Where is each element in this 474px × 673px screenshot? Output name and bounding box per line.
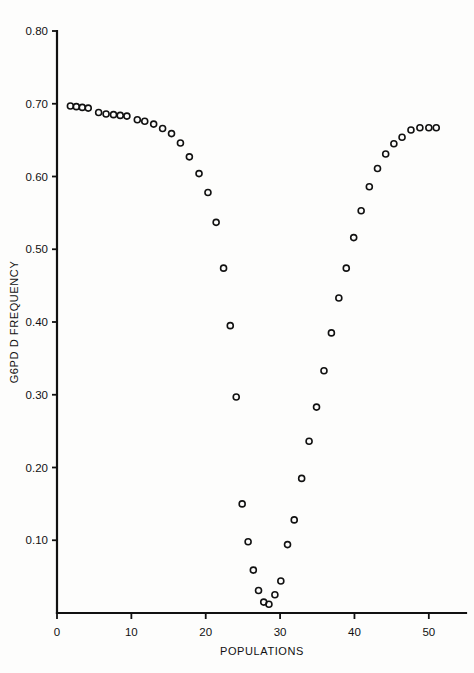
data-point [142, 118, 148, 124]
y-tick-label: 0.30 [26, 389, 48, 401]
figure-container: 0.100.200.300.400.500.600.700.80 0102030… [0, 0, 474, 673]
data-point [213, 219, 219, 225]
x-axis-title: POPULATIONS [220, 645, 304, 657]
data-point [85, 105, 91, 111]
data-point [328, 330, 334, 336]
x-tick-label: 30 [274, 626, 287, 638]
data-point [250, 567, 256, 573]
data-point [103, 111, 109, 117]
y-tick-group: 0.100.200.300.400.500.600.700.80 [26, 25, 57, 546]
data-point [291, 517, 297, 523]
data-point [314, 404, 320, 410]
data-point-group [67, 103, 439, 607]
data-point [383, 151, 389, 157]
data-point [358, 208, 364, 214]
x-tick-label: 50 [422, 626, 435, 638]
data-point [399, 134, 405, 140]
y-tick-label: 0.20 [26, 462, 48, 474]
data-point [196, 171, 202, 177]
data-point [96, 109, 102, 115]
data-point [111, 112, 117, 118]
data-point [134, 117, 140, 123]
x-tick-label: 10 [125, 626, 138, 638]
data-point [351, 235, 357, 241]
data-point [233, 394, 239, 400]
data-point [299, 475, 305, 481]
x-tick-label: 40 [348, 626, 361, 638]
y-tick-label: 0.80 [26, 25, 48, 37]
data-point [321, 368, 327, 374]
data-point [221, 265, 227, 271]
data-point [124, 113, 130, 119]
y-tick-label: 0.40 [26, 316, 48, 328]
data-point [245, 539, 251, 545]
data-point [151, 121, 157, 127]
y-tick-label: 0.50 [26, 243, 48, 255]
scatter-plot: 0.100.200.300.400.500.600.700.80 0102030… [0, 0, 474, 673]
data-point [278, 578, 284, 584]
data-point [256, 587, 262, 593]
data-point [272, 592, 278, 598]
data-point [79, 104, 85, 110]
x-tick-label: 0 [54, 626, 60, 638]
data-point [117, 112, 123, 118]
data-point [285, 542, 291, 548]
data-point [433, 125, 439, 131]
data-point [426, 125, 432, 131]
data-point [160, 125, 166, 131]
data-point [375, 166, 381, 172]
y-tick-label: 0.70 [26, 98, 48, 110]
data-point [391, 141, 397, 147]
y-axis-title: G6PD D FREQUENCY [8, 261, 20, 384]
data-point [417, 125, 423, 131]
data-point [67, 103, 73, 109]
y-tick-label: 0.60 [26, 171, 48, 183]
x-tick-group: 01020304050 [54, 613, 435, 638]
data-point [336, 295, 342, 301]
data-point [169, 131, 175, 137]
y-tick-label: 0.10 [26, 534, 48, 546]
data-point [366, 184, 372, 190]
data-point [239, 501, 245, 507]
data-point [73, 104, 79, 110]
data-point [306, 438, 312, 444]
data-point [205, 190, 211, 196]
x-tick-label: 20 [199, 626, 212, 638]
data-point [227, 323, 233, 329]
data-point [186, 154, 192, 160]
data-point [343, 265, 349, 271]
data-point [177, 140, 183, 146]
data-point [408, 127, 414, 133]
